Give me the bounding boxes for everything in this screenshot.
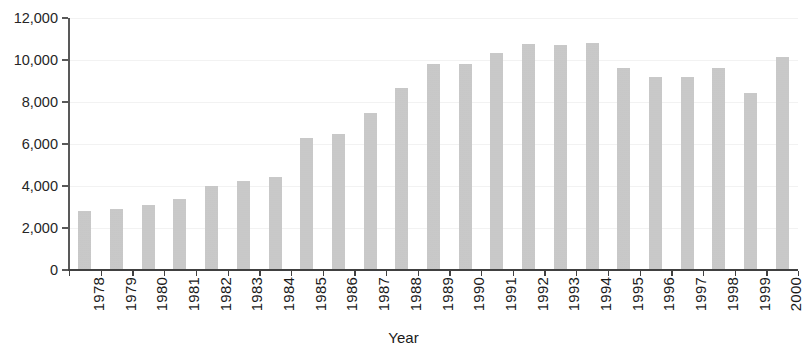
x-axis-tick-label: 1986 (344, 277, 359, 311)
y-axis-tick-label: 12,000 (14, 11, 58, 26)
x-axis-tick-label: 2000 (788, 277, 803, 311)
x-axis-tick (640, 271, 641, 276)
y-axis-tick (62, 143, 68, 145)
bar (617, 68, 630, 270)
x-axis-tick (259, 271, 260, 276)
x-axis-tick-label-wrapper: 1990 (471, 277, 486, 311)
x-axis-tick-label: 1992 (535, 277, 550, 311)
x-axis-tick (101, 271, 102, 276)
x-axis-tick (735, 271, 736, 276)
bar (269, 177, 282, 271)
y-axis-tick (62, 227, 68, 229)
x-axis-tick-label-wrapper: 1981 (186, 277, 201, 311)
y-axis-tick (62, 17, 68, 19)
x-axis-tick-label-wrapper: 1993 (566, 277, 581, 311)
x-axis-tick-label: 1988 (408, 277, 423, 311)
bar (776, 57, 789, 270)
bar (522, 44, 535, 270)
x-axis-tick-label-wrapper: 1992 (535, 277, 550, 311)
y-axis-tick-labels: 12,00010,0008,0006,0004,0002,0000 (0, 0, 58, 349)
x-axis-tick-label-wrapper: 1998 (725, 277, 740, 311)
x-axis-tick-label: 1995 (630, 277, 645, 311)
bar (364, 113, 377, 271)
y-axis-tick (62, 269, 68, 271)
x-axis-tick-label: 1978 (91, 277, 106, 311)
bar (78, 211, 91, 270)
x-axis-tick-label: 1991 (503, 277, 518, 311)
x-axis-tick-label: 1987 (376, 277, 391, 311)
x-axis-tick-label: 1984 (281, 277, 296, 311)
x-axis-tick (671, 271, 672, 276)
x-axis-tick (481, 271, 482, 276)
bar (110, 209, 123, 270)
x-axis-tick (228, 271, 229, 276)
x-axis-tick-label: 1985 (313, 277, 328, 311)
x-axis-tick (69, 271, 70, 276)
x-axis-line (68, 269, 798, 271)
x-axis-tick-label-wrapper: 1984 (281, 277, 296, 311)
plot-area (69, 18, 798, 270)
x-axis-tick (513, 271, 514, 276)
y-axis-tick-label: 2,000 (22, 221, 58, 236)
x-axis-tick (196, 271, 197, 276)
y-axis-tick-label: 0 (50, 263, 58, 278)
bar-chart: 12,00010,0008,0006,0004,0002,0000 197819… (0, 0, 807, 349)
x-axis-tick (132, 271, 133, 276)
x-axis-tick-label: 1993 (566, 277, 581, 311)
x-axis-tick-label-wrapper: 1986 (344, 277, 359, 311)
x-axis-tick-label-wrapper: 1988 (408, 277, 423, 311)
x-axis-tick-label: 1999 (757, 277, 772, 311)
x-axis-tick (608, 271, 609, 276)
bar (681, 77, 694, 270)
x-axis-tick-label: 1994 (598, 277, 613, 311)
bar (332, 134, 345, 271)
x-axis-tick (386, 271, 387, 276)
x-axis-tick-label: 1983 (249, 277, 264, 311)
y-axis-line (68, 18, 70, 271)
y-axis-tick-label: 4,000 (22, 179, 58, 194)
x-axis-tick (164, 271, 165, 276)
bar (237, 181, 250, 270)
x-axis-tick (418, 271, 419, 276)
x-axis-tick-label-wrapper: 1983 (249, 277, 264, 311)
x-axis-tick-label-wrapper: 1991 (503, 277, 518, 311)
x-axis-tick-label: 1981 (186, 277, 201, 311)
bar (142, 205, 155, 270)
x-axis-tick-label: 1998 (725, 277, 740, 311)
bar (300, 138, 313, 270)
x-axis-tick (354, 271, 355, 276)
x-axis-tick-label-wrapper: 1985 (313, 277, 328, 311)
x-axis-tick (576, 271, 577, 276)
x-axis-tick-label-wrapper: 1979 (123, 277, 138, 311)
bar (490, 53, 503, 270)
y-axis-tick-label: 8,000 (22, 95, 58, 110)
bar (712, 68, 725, 270)
x-axis-tick-label: 1990 (471, 277, 486, 311)
x-axis-tick-label-wrapper: 1996 (661, 277, 676, 311)
x-axis-tick-label-wrapper: 1995 (630, 277, 645, 311)
bar (586, 43, 599, 270)
x-axis-tick-label-wrapper: 1999 (757, 277, 772, 311)
x-axis-tick-label-wrapper: 2000 (788, 277, 803, 311)
x-axis-tick-label-wrapper: 1980 (154, 277, 169, 311)
x-axis-tick-label: 1997 (693, 277, 708, 311)
x-axis-tick (291, 271, 292, 276)
bar (205, 186, 218, 270)
x-axis-tick (798, 271, 799, 276)
x-axis-tick-label: 1980 (154, 277, 169, 311)
x-axis-tick (323, 271, 324, 276)
x-axis-tick (544, 271, 545, 276)
y-axis-tick-label: 6,000 (22, 137, 58, 152)
x-axis-tick (449, 271, 450, 276)
y-axis-tick (62, 59, 68, 61)
x-axis-tick-label-wrapper: 1997 (693, 277, 708, 311)
y-axis-tick (62, 101, 68, 103)
y-axis-tick (62, 185, 68, 187)
x-axis-tick-label: 1982 (218, 277, 233, 311)
y-axis-tick-label: 10,000 (14, 53, 58, 68)
x-axis-tick-label-wrapper: 1994 (598, 277, 613, 311)
bar (459, 64, 472, 270)
x-axis-tick (703, 271, 704, 276)
x-axis-tick-label-wrapper: 1987 (376, 277, 391, 311)
bar (395, 88, 408, 270)
